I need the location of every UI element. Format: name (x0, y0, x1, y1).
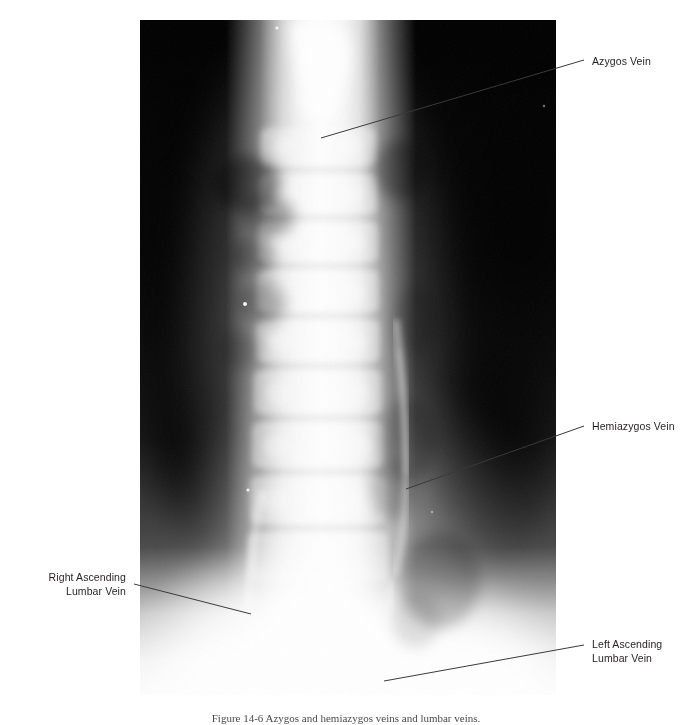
radiograph-image (140, 20, 556, 695)
figure-caption: Figure 14-6 Azygos and hemiazygos veins … (0, 712, 692, 725)
annotation-label-hemiazygos-vein: Hemiazygos Vein (592, 419, 692, 433)
film-grain (140, 20, 556, 695)
annotation-label-right-ascending-lumbar-vein: Right Ascending Lumbar Vein (8, 570, 126, 598)
radiograph-canvas (140, 20, 556, 695)
annotation-label-left-ascending-lumbar-vein: Left Ascending Lumbar Vein (592, 637, 688, 665)
annotation-label-azygos-vein: Azygos Vein (592, 54, 688, 68)
